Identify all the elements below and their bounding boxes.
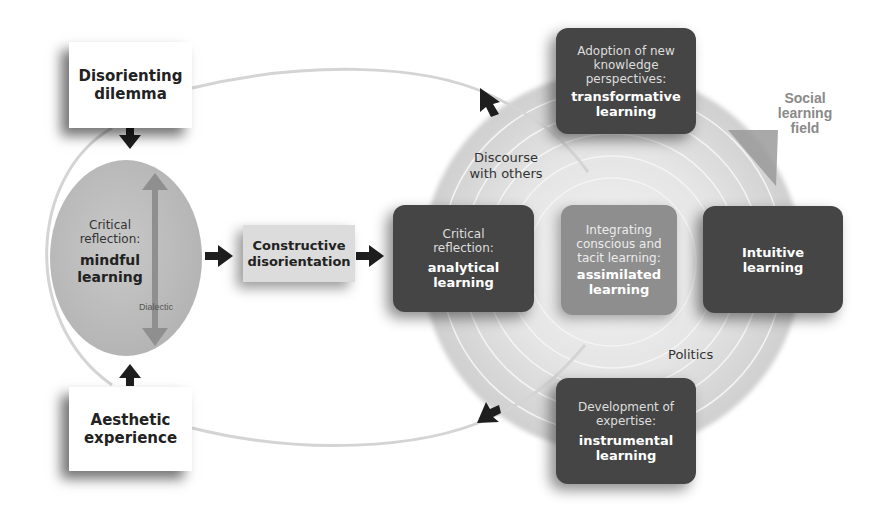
constructive-line2: disorientation [247,254,350,270]
mindful-sub1: Critical [70,218,150,232]
mindful-main: mindful learning [70,252,150,286]
transformative-learning-box: Adoption of new knowledge perspectives: … [556,28,696,134]
intuitive-main: Intuitive learning [742,245,804,275]
transformative-main: transformative learning [571,89,681,119]
arrow-down-icon [119,127,141,149]
intuitive-main1: Intuitive [742,245,804,260]
analytical-main2: learning [428,275,499,290]
analytical-main: analytical learning [428,260,499,290]
mindful-sub2: reflection: [70,232,150,246]
instrumental-main: instrumental learning [579,433,673,463]
analytical-sub2: reflection: [433,241,494,255]
arrow-right-icon [205,245,233,267]
assimilated-main: assimilated learning [577,267,661,297]
mindful-learning-label: Critical reflection: mindful learning [70,218,150,286]
disorienting-dilemma-line1: Disorienting [79,67,183,85]
instrumental-main1: instrumental [579,433,673,448]
upper-loop-arrowhead-icon [480,88,500,117]
dialectic-label: Dialectic [139,302,173,312]
assimilated-sub2: conscious and [576,237,661,251]
instrumental-learning-box: Development of expertise: instrumental l… [556,378,696,484]
transformative-main1: transformative [571,89,681,104]
constructive-disorientation-box: Constructive disorientation [243,225,355,282]
mindful-main2: learning [70,269,150,286]
intuitive-learning-box: Intuitive learning [703,206,843,313]
aesthetic-line1: Aesthetic [91,411,171,429]
instrumental-sub1: Development of [578,400,674,414]
arrow-up-icon [119,364,141,386]
assimilated-sub3: tacit learning: [577,251,661,265]
assimilated-learning-box: Integrating conscious and tacit learning… [561,205,677,315]
assimilated-sub1: Integrating [586,223,652,237]
transformative-sub1: Adoption of new [577,44,675,58]
transformative-sub2: knowledge [593,58,658,72]
transformative-sub3: perspectives: [586,72,667,86]
instrumental-sub2: expertise: [596,414,656,428]
discourse-line2: with others [462,166,550,182]
analytical-main1: analytical [428,260,499,275]
analytical-sub1: Critical [443,227,485,241]
disorienting-dilemma-line2: dilemma [94,85,167,103]
social-line3: field [770,121,840,136]
aesthetic-line2: experience [84,429,177,447]
disorienting-dilemma-box: Disorienting dilemma [69,42,192,128]
discourse-label: Discourse with others [462,150,550,182]
social-line1: Social [770,91,840,106]
analytical-learning-box: Critical reflection: analytical learning [393,205,534,312]
assimilated-main2: learning [577,282,661,297]
instrumental-main2: learning [579,448,673,463]
intuitive-main2: learning [742,260,804,275]
mindful-main1: mindful [70,252,150,269]
discourse-line1: Discourse [462,150,550,166]
aesthetic-experience-box: Aesthetic experience [69,387,192,471]
transformative-main2: learning [571,104,681,119]
constructive-line1: Constructive [252,238,345,254]
social-line2: learning [770,106,840,121]
assimilated-main1: assimilated [577,267,661,282]
arrow-right-icon [356,245,384,267]
politics-label: Politics [668,347,713,363]
social-learning-field-label: Social learning field [770,91,840,136]
